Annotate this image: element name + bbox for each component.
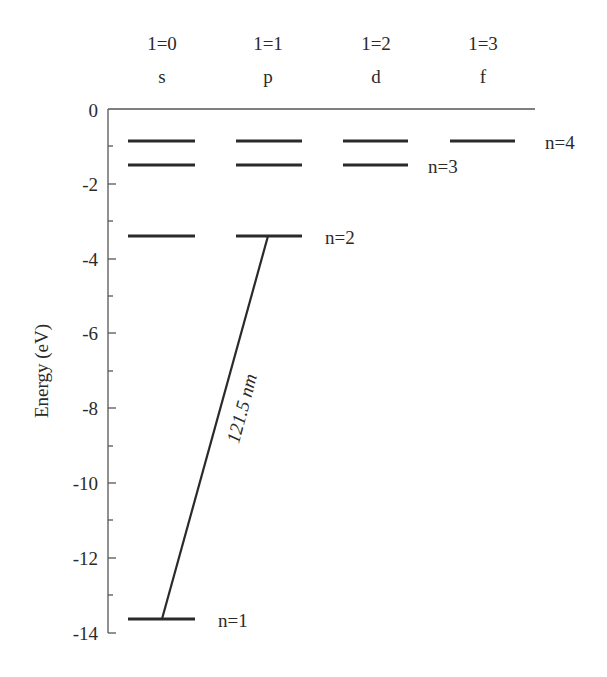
- tick-neg12: -12: [73, 548, 98, 569]
- tick-neg2: -2: [82, 174, 98, 195]
- label-n4: n=4: [545, 132, 575, 153]
- transition-2p-1s: [162, 236, 268, 619]
- column-headers: 1=0 1=1 1=2 1=3 s p d f: [147, 33, 498, 87]
- label-n1: n=1: [218, 610, 248, 631]
- label-n3: n=3: [428, 156, 458, 177]
- tick-0: 0: [89, 100, 99, 121]
- label-n2: n=2: [325, 227, 355, 248]
- header-f: f: [480, 66, 487, 87]
- y-axis: [108, 109, 535, 633]
- header-l1: 1=1: [253, 33, 283, 54]
- tick-neg14: -14: [73, 623, 99, 644]
- energy-level-diagram: 1=0 1=1 1=2 1=3 s p d f 0 -2 -4 -6 -8 -1…: [0, 0, 607, 677]
- level-labels: n=4 n=3 n=2 n=1: [218, 132, 575, 631]
- tick-neg10: -10: [73, 473, 98, 494]
- tick-neg8: -8: [82, 398, 98, 419]
- header-l3: 1=3: [468, 33, 498, 54]
- y-axis-label: Energy (eV): [31, 324, 53, 418]
- header-l0: 1=0: [147, 33, 177, 54]
- header-s: s: [158, 66, 165, 87]
- tick-neg4: -4: [82, 249, 98, 270]
- header-p: p: [263, 66, 273, 87]
- y-tick-labels: 0 -2 -4 -6 -8 -10 -12 -14: [73, 100, 99, 644]
- header-l2: 1=2: [361, 33, 391, 54]
- header-d: d: [371, 66, 381, 87]
- tick-neg6: -6: [82, 323, 98, 344]
- energy-levels: [128, 141, 515, 619]
